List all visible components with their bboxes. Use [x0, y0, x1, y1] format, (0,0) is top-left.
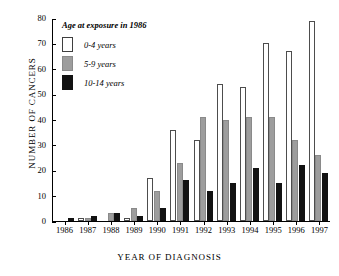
- bar-chart-figure: NUMBER OF CANCERS YEAR OF DIAGNOSIS 0102…: [0, 0, 339, 276]
- y-tick-label: 60: [38, 64, 47, 75]
- x-axis-title: YEAR OF DIAGNOSIS: [0, 252, 339, 262]
- y-tick-label: 40: [38, 115, 47, 126]
- bar: [292, 140, 298, 221]
- bar: [240, 87, 246, 221]
- bar: [276, 183, 282, 221]
- y-tick-label: 50: [38, 89, 47, 100]
- bar: [114, 213, 120, 221]
- bar: [194, 140, 200, 221]
- bar: [160, 208, 166, 221]
- y-tick-label: 30: [38, 140, 47, 151]
- bar: [91, 216, 97, 221]
- bar-group: [284, 19, 307, 221]
- x-tick-label: 1988: [99, 225, 122, 235]
- bar: [315, 155, 321, 221]
- y-tick-mark: [52, 222, 56, 223]
- bar-group: [238, 19, 261, 221]
- bar: [223, 120, 229, 222]
- legend-title: Age at exposure in 1986: [62, 20, 197, 30]
- bar: [200, 117, 206, 221]
- bar: [177, 163, 183, 221]
- x-tick-label: 1990: [146, 225, 169, 235]
- bar: [207, 191, 213, 221]
- bar: [170, 130, 176, 221]
- y-tick-label: 80: [38, 13, 47, 24]
- x-tick-label: 1991: [169, 225, 192, 235]
- bar: [309, 21, 315, 221]
- bar-group: [307, 19, 330, 221]
- x-tick-label: 1994: [238, 225, 261, 235]
- bar-group: [261, 19, 284, 221]
- legend-swatch: [62, 56, 73, 71]
- legend-label: 10-14 years: [84, 78, 124, 88]
- legend-item: 0-4 years: [62, 35, 197, 54]
- x-tick-label: 1996: [285, 225, 308, 235]
- bar: [230, 183, 236, 221]
- legend-item: 5-9 years: [62, 54, 197, 73]
- y-tick-label: 20: [38, 165, 47, 176]
- legend-swatch: [62, 75, 73, 90]
- legend-entries: 0-4 years5-9 years10-14 years: [62, 35, 197, 92]
- legend-label: 0-4 years: [84, 40, 116, 50]
- bar: [85, 218, 91, 221]
- x-tick-label: 1997: [308, 225, 331, 235]
- bar: [286, 51, 292, 221]
- y-tick-label: 70: [38, 38, 47, 49]
- bar: [299, 165, 305, 221]
- y-axis-title: NUMBER OF CANCERS: [27, 33, 37, 193]
- bar: [78, 218, 84, 221]
- legend-swatch: [62, 37, 73, 52]
- bar: [253, 168, 259, 221]
- x-tick-label: 1987: [76, 225, 99, 235]
- y-tick-label: 10: [38, 191, 47, 202]
- x-axis-line: [52, 221, 330, 222]
- bar: [154, 191, 160, 221]
- bar: [263, 43, 269, 221]
- legend: Age at exposure in 1986 0-4 years5-9 yea…: [62, 20, 197, 92]
- x-tick-label: 1986: [53, 225, 76, 235]
- x-tick-label: 1993: [215, 225, 238, 235]
- bar: [131, 208, 137, 221]
- legend-label: 5-9 years: [84, 59, 116, 69]
- bar: [217, 84, 223, 221]
- x-tick-label: 1989: [123, 225, 146, 235]
- bar: [124, 218, 130, 221]
- x-axis-tick-labels: 1986198719881989199019911992199319941995…: [53, 225, 331, 235]
- bar: [322, 173, 328, 221]
- y-tick-label: 0: [42, 216, 46, 227]
- x-tick-label: 1995: [262, 225, 285, 235]
- bar: [137, 216, 143, 221]
- bar-group: [215, 19, 238, 221]
- bar: [68, 218, 74, 221]
- bar: [269, 117, 275, 221]
- bar: [183, 180, 189, 221]
- bar: [147, 178, 153, 221]
- legend-item: 10-14 years: [62, 73, 197, 92]
- bar: [246, 117, 252, 221]
- bar: [108, 213, 114, 221]
- x-tick-label: 1992: [192, 225, 215, 235]
